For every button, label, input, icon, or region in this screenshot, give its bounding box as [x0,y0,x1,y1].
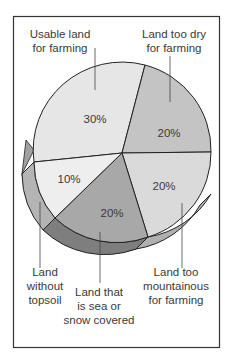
pie-chart: 30% 20% 20% 20% 10% Usable land for farm… [0,0,231,358]
svg-text:Land too dry: Land too dry [142,28,206,40]
svg-text:is sea or: is sea or [77,300,121,312]
svg-text:mountainous: mountainous [143,280,209,292]
svg-text:without: without [26,280,64,292]
svg-text:Land too: Land too [154,266,199,278]
svg-text:Land that: Land that [75,286,124,298]
svg-text:for farming: for farming [33,42,88,54]
svg-text:for farming: for farming [147,42,202,54]
svg-text:for farming: for farming [149,294,204,306]
svg-text:topsoil: topsoil [28,294,61,306]
pct-mountainous: 20% [152,180,175,192]
svg-text:snow covered: snow covered [64,314,135,326]
svg-text:Land: Land [32,266,58,278]
pct-topsoil: 10% [57,173,80,185]
pct-sea: 20% [100,207,123,219]
pct-usable: 30% [83,113,106,125]
pct-dry: 20% [157,127,180,139]
svg-text:Usable land: Usable land [30,28,91,40]
